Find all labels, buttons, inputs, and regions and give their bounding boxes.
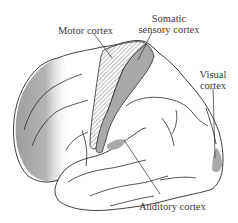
frontal-shading [16,56,71,182]
motor-cortex-label: Motor cortex [58,25,113,36]
brain-diagram [0,0,238,223]
somatic-sensory-label-line1: Somatic [136,13,202,24]
somatic-sensory-label-line2: sensory cortex [136,24,202,35]
somatic-sensory-label: Somatic sensory cortex [136,13,202,35]
visual-cortex-label: Visual cortex [194,69,232,91]
auditory-cortex-label: Auditory cortex [139,201,206,212]
visual-cortex-label-line2: cortex [194,80,232,91]
auditory-cortex-region [107,139,126,150]
visual-cortex-region [212,148,222,172]
visual-cortex-label-line1: Visual [194,69,232,80]
